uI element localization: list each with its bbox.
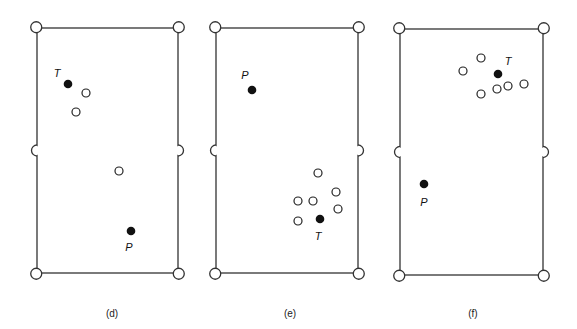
open-ball xyxy=(520,80,528,88)
corner-pocket-icon xyxy=(538,23,549,34)
corner-pocket-icon xyxy=(353,268,364,279)
corner-pocket-icon xyxy=(210,268,221,279)
table-cushion xyxy=(400,29,543,275)
panel-e: TP(e) xyxy=(210,22,365,319)
corner-pocket-icon xyxy=(31,268,42,279)
pool-table-diagram: TP(d) TP(e) TP(f) xyxy=(0,0,577,329)
target-ball xyxy=(64,80,73,89)
corner-pocket-icon xyxy=(394,270,405,281)
open-ball xyxy=(82,89,90,97)
corner-pocket-icon xyxy=(210,22,221,33)
cue-ball-label: P xyxy=(125,241,133,253)
target-ball-label: T xyxy=(315,230,323,242)
table-cushion xyxy=(37,28,178,273)
panel-caption: (d) xyxy=(106,308,118,319)
target-ball-label: T xyxy=(54,67,62,79)
corner-pocket-icon xyxy=(353,22,364,33)
open-ball xyxy=(294,217,302,225)
open-ball xyxy=(314,169,322,177)
open-ball xyxy=(477,54,485,62)
target-ball-label: T xyxy=(505,55,513,67)
open-ball xyxy=(334,205,342,213)
open-ball xyxy=(332,188,340,196)
cue-ball-label: P xyxy=(420,196,428,208)
cue-ball xyxy=(420,180,429,189)
table-cushion xyxy=(216,28,358,273)
panel-d: TP(d) xyxy=(31,22,185,319)
open-ball xyxy=(72,108,80,116)
open-ball xyxy=(115,167,123,175)
open-ball xyxy=(459,67,467,75)
open-ball xyxy=(309,197,317,205)
corner-pocket-icon xyxy=(173,22,184,33)
open-ball xyxy=(493,85,501,93)
cue-ball xyxy=(248,86,257,95)
open-ball xyxy=(477,90,485,98)
target-ball xyxy=(316,215,325,224)
panel-caption: (f) xyxy=(468,308,477,319)
panel-caption: (e) xyxy=(284,308,296,319)
open-ball xyxy=(504,82,512,90)
open-ball xyxy=(294,197,302,205)
panel-f: TP(f) xyxy=(394,23,550,319)
corner-pocket-icon xyxy=(173,268,184,279)
corner-pocket-icon xyxy=(31,22,42,33)
target-ball xyxy=(494,70,503,79)
cue-ball xyxy=(127,227,136,236)
corner-pocket-icon xyxy=(394,23,405,34)
corner-pocket-icon xyxy=(538,270,549,281)
cue-ball-label: P xyxy=(241,69,249,81)
